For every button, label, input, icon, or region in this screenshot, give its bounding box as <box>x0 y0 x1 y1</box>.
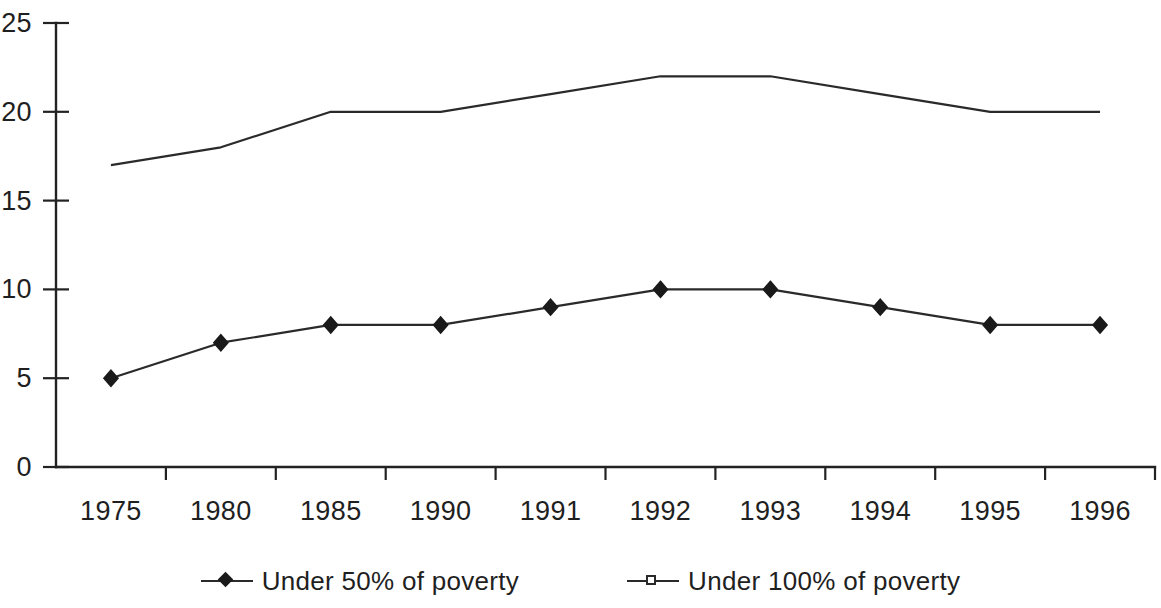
data-point-marker <box>214 335 228 351</box>
data-point-marker <box>1093 317 1107 333</box>
y-axis-tick-label: 10 <box>1 274 32 304</box>
legend-entry-under-100[interactable]: Under 100% of poverty <box>627 566 960 597</box>
y-axis-tick-label: 15 <box>1 186 32 216</box>
chart-axes <box>43 23 1155 480</box>
chart-series-group <box>104 76 1107 386</box>
data-point-marker <box>763 281 777 297</box>
x-axis-tick-label: 1994 <box>849 496 911 526</box>
open-square-icon <box>627 571 679 591</box>
filled-diamond-icon <box>201 571 253 591</box>
data-point-marker <box>653 281 667 297</box>
x-axis-tick-label: 1995 <box>959 496 1021 526</box>
data-point-marker <box>544 299 558 315</box>
data-point-marker <box>104 370 118 386</box>
y-axis-tick-label: 5 <box>17 363 32 393</box>
y-axis-tick-label: 25 <box>1 8 32 38</box>
y-axis-tick-labels: 0510152025 <box>1 8 32 482</box>
data-point-marker <box>434 317 448 333</box>
chart-legend: Under 50% of poverty Under 100% of pover… <box>0 557 1161 605</box>
y-axis-tick-label: 0 <box>17 452 32 482</box>
data-point-marker <box>873 299 887 315</box>
x-axis-tick-label: 1993 <box>740 496 802 526</box>
series-line-2 <box>111 76 1100 165</box>
x-axis-tick-label: 1992 <box>630 496 692 526</box>
legend-label-under-50: Under 50% of poverty <box>262 566 519 597</box>
data-point-marker <box>983 317 997 333</box>
x-axis-tick-label: 1991 <box>520 496 582 526</box>
legend-entry-under-50[interactable]: Under 50% of poverty <box>201 566 519 597</box>
x-axis-tick-label: 1975 <box>80 496 142 526</box>
x-axis-tick-label: 1980 <box>190 496 252 526</box>
poverty-line-chart: 0510152025 19751980198519901991199219931… <box>0 0 1161 608</box>
chart-plot-area: 0510152025 19751980198519901991199219931… <box>0 0 1161 608</box>
x-axis-tick-label: 1996 <box>1069 496 1131 526</box>
series-line-1 <box>111 289 1100 378</box>
y-axis-tick-label: 20 <box>1 97 32 127</box>
x-axis-tick-label: 1985 <box>300 496 362 526</box>
x-axis-tick-labels: 1975198019851990199119921993199419951996 <box>80 496 1131 526</box>
x-axis-tick-label: 1990 <box>410 496 472 526</box>
data-point-marker <box>324 317 338 333</box>
legend-label-under-100: Under 100% of poverty <box>688 566 960 597</box>
